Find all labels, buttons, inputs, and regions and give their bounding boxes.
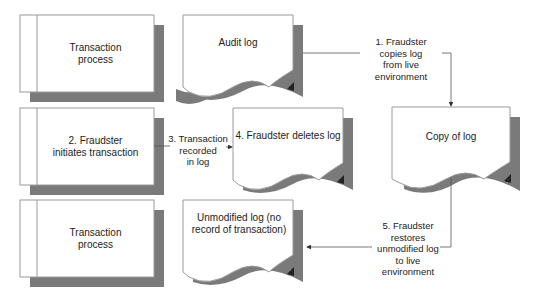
label-line: in log: [168, 156, 228, 168]
label-line: from live environment: [358, 59, 444, 82]
process-box-fraudster-initiates-label: 2. Fraudsterinitiates transaction: [37, 108, 154, 185]
process-box-transaction-3-label: Transactionprocess: [37, 200, 154, 277]
document-copy-of-log-label: Copy of log: [392, 124, 510, 150]
label-line: copies log: [358, 48, 444, 60]
label-line: 2. Fraudster: [53, 135, 139, 147]
document-audit-log-label: Audit log: [183, 30, 293, 56]
document-unmodified-log-label: Unmodified log (no record of transaction…: [185, 210, 293, 238]
document-fraudster-deletes-log-label: 4. Fraudster deletes log: [233, 123, 343, 149]
label-line: process: [70, 239, 122, 251]
label-line: 1. Fraudster: [358, 36, 444, 48]
label-line: unmodified log: [370, 243, 446, 255]
process-box-transaction-1-label: Transactionprocess: [37, 15, 154, 92]
label-line: Transaction: [70, 227, 122, 239]
label-line: Transaction: [70, 42, 122, 54]
edge-copies-log-label: 1. Fraudster copies log from live enviro…: [358, 36, 444, 82]
label-line: 5. Fraudster: [370, 220, 446, 232]
document-audit-log: [176, 15, 303, 104]
edge-restores-log-label: 5. Fraudster restores unmodified log to …: [370, 220, 446, 278]
label-line: to live environment: [370, 255, 446, 278]
label-line: initiates transaction: [53, 147, 139, 159]
label-line: 3. Transaction: [168, 133, 228, 145]
document-fraudster-deletes-log: [233, 108, 353, 193]
label-line: process: [70, 54, 122, 66]
edge-transaction-recorded-label: 3. Transaction recorded in log: [168, 133, 228, 168]
label-line: restores: [370, 232, 446, 244]
label-line: recorded: [168, 145, 228, 157]
